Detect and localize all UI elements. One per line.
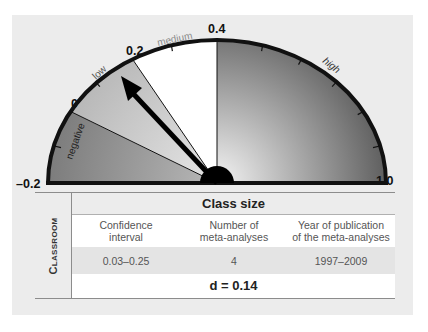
- table-title: Class size: [72, 193, 395, 214]
- label-0.2: 0.2: [126, 44, 143, 58]
- d-value: d = 0.14: [72, 274, 395, 298]
- label-0.4: 0.4: [208, 22, 225, 36]
- category-label: Classroom: [38, 198, 68, 293]
- zone-high: [217, 40, 386, 183]
- header-num-line1: Number of: [209, 219, 258, 231]
- label-1.0: 1.0: [376, 174, 393, 188]
- value-year-publication: 1997–2009: [285, 247, 397, 274]
- header-year-publication: Year of publication of the meta-analyses: [285, 215, 397, 247]
- header-year-line1: Year of publication: [298, 219, 384, 231]
- header-ci-line2: interval: [109, 231, 143, 243]
- label-0: 0: [71, 97, 78, 111]
- table-bottom-rule: [35, 298, 395, 299]
- effect-size-gauge: –0.2 0 0.2 0.4 1.0 negative low medium h…: [0, 0, 428, 200]
- header-num-line2: meta-analyses: [200, 231, 268, 243]
- value-confidence-interval: 0.03–0.25: [72, 247, 180, 274]
- category-label-text: Classroom: [47, 217, 59, 274]
- value-number-meta-analyses: 4: [180, 247, 288, 274]
- header-year-line2: of the meta-analyses: [292, 231, 389, 243]
- header-confidence-interval: Confidence interval: [72, 215, 180, 247]
- header-number-meta-analyses: Number of meta-analyses: [180, 215, 288, 247]
- header-ci-line1: Confidence: [99, 219, 152, 231]
- label-neg-0.2: –0.2: [16, 177, 40, 191]
